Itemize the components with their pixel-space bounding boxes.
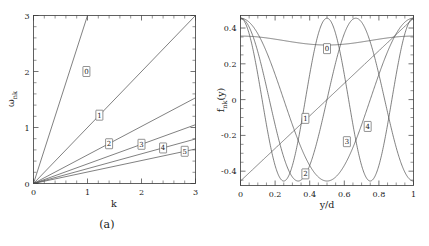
- panel-a-curve-4: [34, 139, 196, 184]
- panel-a-tick-labels: 01230123: [24, 12, 198, 197]
- panel-b-label-0-text: 0: [325, 45, 329, 53]
- panel-a-ytick-label: 0: [24, 180, 29, 189]
- panel-a-label-0-text: 0: [84, 68, 88, 76]
- panel-a-curve-labels: 012345: [83, 67, 188, 157]
- panel-a-x-axis-title: k: [111, 198, 117, 209]
- panel-a-ytick-label: 2: [24, 68, 29, 77]
- panel-b-xtick-label: 0.4: [303, 190, 316, 199]
- panel-b-plot: 01234 00.20.40.60.81-0.4-0.200.20.4 y/d …: [215, 0, 429, 214]
- panel-a-caption: (a): [0, 218, 214, 231]
- svg-text:ωnk: ωnk: [5, 91, 19, 107]
- panel-a-label-4-text: 4: [161, 144, 166, 152]
- panel-b-curves: [241, 18, 414, 181]
- panel-b-y-axis-title: fnk(y): [215, 88, 229, 112]
- panel-a-label-3-text: 3: [139, 141, 143, 149]
- panel-a-label-2-text: 2: [107, 140, 111, 148]
- panel-a-curve-0: [34, 16, 88, 184]
- panel-b-label-2-text: 2: [303, 170, 307, 178]
- panel-b-label-3-text: 3: [345, 138, 349, 146]
- panel-b-tick-labels: 00.20.40.60.81-0.4-0.200.20.4: [221, 24, 416, 198]
- panel-a-curves: [34, 16, 196, 184]
- panel-a-ytick-label: 1: [24, 124, 29, 133]
- panel-b-xtick-label: 0.6: [338, 190, 351, 199]
- panel-a-xtick-label: 0: [31, 188, 36, 197]
- panel-a-xtick-label: 1: [85, 188, 90, 197]
- panel-b-ytick-label: 0.4: [224, 24, 237, 33]
- panel-b-label-4-text: 4: [365, 123, 370, 131]
- panel-a-plot: 012345 01230123 k ωnk: [0, 0, 214, 214]
- panel-b-ytick-label: -0.4: [221, 167, 236, 176]
- panel-a-curve-1: [34, 16, 196, 184]
- svg-text:fnk(y): fnk(y): [215, 88, 229, 112]
- panel-a-label-5-text: 5: [182, 148, 186, 156]
- panel-a-xtick-label: 2: [139, 188, 144, 197]
- panel-a-ytick-label: 3: [24, 12, 29, 21]
- panel-a-label-1-text: 1: [97, 112, 101, 120]
- panel-b-xtick-label: 1: [411, 190, 416, 199]
- panel-b-eigenfunctions: 01234 00.20.40.60.81-0.4-0.200.20.4 y/d …: [215, 0, 429, 246]
- panel-a-xtick-label: 3: [193, 188, 198, 197]
- panel-b-ytick-label: 0: [231, 96, 236, 105]
- panel-a-curve-2: [34, 98, 196, 184]
- panel-b-ytick-label: -0.2: [221, 131, 236, 140]
- panel-b-xtick-label: 0: [238, 190, 243, 199]
- figure-container: 012345 01230123 k ωnk (a) 01234 00.20.40…: [0, 0, 429, 246]
- panel-b-x-axis-title: y/d: [319, 199, 335, 210]
- panel-a-dispersion: 012345 01230123 k ωnk (a): [0, 0, 214, 246]
- panel-b-xtick-label: 0.2: [269, 190, 282, 199]
- panel-a-y-axis-title: ωnk: [5, 91, 19, 107]
- panel-b-label-1-text: 1: [303, 115, 307, 123]
- panel-b-ytick-label: 0.2: [224, 60, 237, 69]
- panel-b-xtick-label: 0.8: [373, 190, 386, 199]
